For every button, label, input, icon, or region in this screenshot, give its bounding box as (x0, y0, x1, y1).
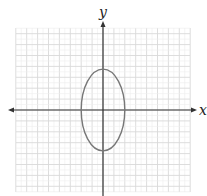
x-axis-label: x (199, 102, 207, 118)
x-axis-left-arrow-icon (8, 108, 14, 113)
y-axis-up-arrow-icon (101, 21, 106, 27)
x-axis-right-arrow-icon (191, 108, 197, 113)
coordinate-graph: x y (0, 0, 207, 196)
y-axis-label: y (98, 4, 108, 20)
